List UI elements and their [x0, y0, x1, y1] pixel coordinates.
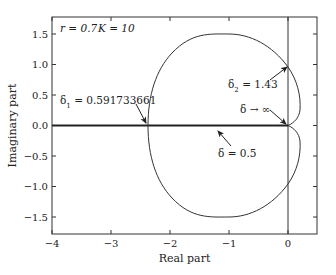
x-tick-label: −1 [222, 238, 237, 249]
x-axis-label: Real part [159, 252, 211, 265]
x-tick-label: −2 [163, 238, 178, 249]
delta-half-label: δ = 0.5 [218, 147, 257, 159]
y-tick-label: −1.0 [24, 181, 48, 192]
y-tick-label: −1.5 [24, 212, 48, 223]
y-tick-label: −0.5 [24, 151, 48, 162]
param-K: K = 10 [97, 22, 135, 34]
x-tick-label: −4 [45, 238, 60, 249]
delta-infinity-label: δ → ∞ [240, 103, 271, 115]
x-tick-label: 0 [285, 238, 291, 249]
y-tick-label: 1.5 [32, 29, 48, 40]
y-tick-label: 0.5 [32, 90, 48, 101]
x-tick-label: −3 [104, 238, 119, 249]
y-tick-label: 0.0 [32, 120, 48, 131]
root-locus-chart: −4 −3 −2 −1 0 1.5 1.0 0.5 0.0 −0.5 −1.0 … [0, 0, 336, 275]
y-tick-label: 1.0 [32, 59, 48, 70]
y-axis-label: Imaginary part [6, 83, 19, 167]
param-r: r = 0.7 [60, 22, 98, 34]
